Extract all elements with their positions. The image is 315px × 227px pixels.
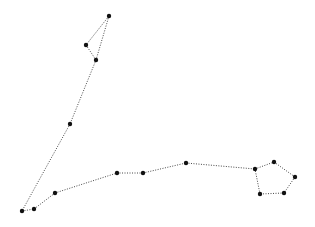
star-point (84, 43, 88, 47)
constellation-lines (22, 16, 295, 211)
constellation-stars (20, 14, 297, 213)
constellation-line (86, 16, 109, 45)
constellation-line (22, 124, 70, 211)
star-point (141, 171, 145, 175)
star-point (272, 160, 276, 164)
star-point (253, 167, 257, 171)
constellation-line (96, 16, 109, 60)
star-point (107, 14, 111, 18)
constellation-line (260, 193, 284, 194)
constellation-line (34, 193, 55, 209)
star-point (32, 207, 36, 211)
star-point (293, 175, 297, 179)
constellation-line (55, 173, 117, 193)
constellation-line (186, 163, 255, 169)
star-point (258, 192, 262, 196)
constellation-line (86, 45, 96, 60)
constellation-line (143, 163, 186, 173)
star-point (53, 191, 57, 195)
constellation-diagram (0, 0, 315, 227)
constellation-line (255, 162, 274, 169)
constellation-line (284, 177, 295, 193)
star-point (94, 58, 98, 62)
star-point (20, 209, 24, 213)
star-point (115, 171, 119, 175)
star-point (68, 122, 72, 126)
star-point (282, 191, 286, 195)
constellation-line (70, 60, 96, 124)
star-point (184, 161, 188, 165)
constellation-line (274, 162, 295, 177)
constellation-line (255, 169, 260, 194)
